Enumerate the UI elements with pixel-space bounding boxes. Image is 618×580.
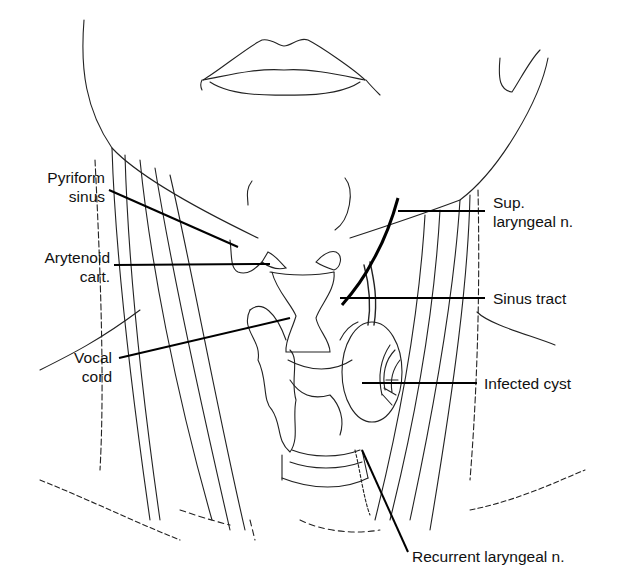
label-vocal-cord: Vocal cord (30, 348, 112, 386)
label-infected-cyst: Infected cyst (484, 374, 571, 393)
leader-recurrent (362, 450, 408, 552)
sup-laryngeal-nerve (342, 198, 398, 305)
arytenoid-right (316, 252, 340, 270)
thyroid-left (247, 310, 296, 452)
leader-vocal-cord (119, 318, 290, 358)
label-recurrent-laryngeal-n: Recurrent laryngeal n. (412, 547, 565, 566)
arytenoid-left (262, 252, 286, 269)
label-pyriform-sinus: Pyriform sinus (20, 168, 105, 206)
trachea (282, 450, 368, 487)
label-sinus-tract: Sinus tract (493, 289, 566, 308)
label-arytenoid-cart: Arytenoid cart. (8, 248, 110, 286)
face-outline (83, 20, 258, 238)
anatomy-diagram: Pyriform sinus Arytenoid cart. Vocal cor… (0, 0, 618, 580)
lips (203, 39, 365, 80)
label-sup-laryngeal-n: Sup. laryngeal n. (493, 193, 573, 231)
leader-arytenoid (114, 264, 270, 265)
